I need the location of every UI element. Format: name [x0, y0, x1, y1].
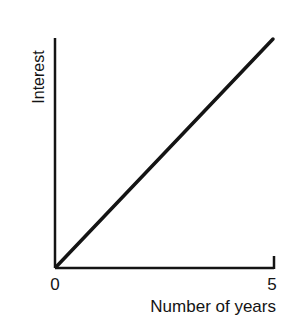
y-axis-label: Interest: [30, 50, 47, 104]
interest-line: [56, 39, 273, 267]
x-tick-label-5: 5: [267, 275, 276, 294]
chart-canvas: 0 5 Number of years Interest: [0, 0, 290, 333]
x-axis-label: Number of years: [150, 297, 276, 316]
x-tick-label-0: 0: [50, 275, 59, 294]
